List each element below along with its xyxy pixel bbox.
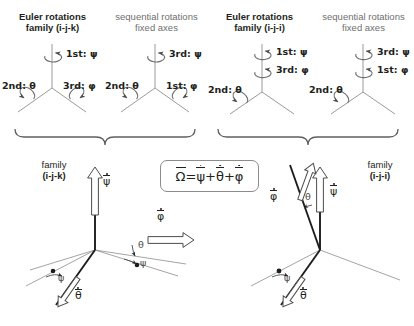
family-line-2: (i-j-k)	[22, 171, 86, 182]
tripod-euler-ijk-label-left: 2nd: θ	[2, 81, 36, 92]
tripod-euler-iji-label-vertical-bottom: 3rd: φ	[276, 65, 309, 76]
vector-psi-dot	[88, 167, 103, 215]
left-vector-label-psi-dot: ψ	[103, 176, 110, 188]
right-vector-label-psi-dot: ψ	[330, 186, 337, 198]
brace-family-ijk	[15, 129, 195, 145]
formula-omega-term: Ω	[176, 169, 186, 184]
family-label-iji: family (i-j-i)	[348, 160, 412, 182]
tripod-euler-ijk-label-vertical: 1st: ψ	[66, 49, 97, 60]
formula-phi: φ	[235, 169, 244, 184]
formula-phi-term: φ	[235, 169, 244, 184]
diagram-angular-velocity-iji	[251, 161, 400, 310]
tripod-sequential-iji-label-vertical-top: 3rd: ψ	[377, 47, 410, 58]
formula-box: Ω=ψ+θ+φ	[160, 160, 259, 192]
formula-psi-term: ψ	[196, 169, 205, 184]
header-euler-iji: Euler rotations family (i-j-i)	[212, 12, 307, 33]
left-vector-label-phi-dot: φ	[157, 211, 164, 223]
tripod-euler-iji-label-vertical-top: 1st: ψ	[276, 47, 307, 58]
tripod-sequential-iji-label-vertical-bottom: 1st: φ	[377, 65, 408, 76]
formula-equals: =	[186, 169, 197, 184]
right-angle-label-theta: θ	[305, 192, 311, 203]
figure-canvas: Euler rotations family (i-j-k) sequentia…	[0, 0, 414, 326]
tripod-sequential-ijk-label-left: 2nd: θ	[105, 81, 139, 92]
header-line-2: fixed axes	[104, 23, 209, 34]
formula-plus-1: +	[205, 169, 216, 184]
brace-family-iji	[218, 129, 398, 145]
right-vector-label-phi-dot: φ	[270, 191, 277, 203]
symbol-theta: θ	[300, 289, 307, 302]
family-line-2: (i-j-i)	[348, 171, 412, 182]
right-angle-label-psi: ψ	[284, 273, 290, 284]
formula-psi: ψ	[196, 169, 205, 184]
symbol-psi: ψ	[103, 175, 110, 188]
header-sequential-ijk: sequential rotations fixed axes	[104, 12, 209, 33]
header-euler-ijk: Euler rotations family (i-j-k)	[5, 12, 100, 33]
left-angle-label-psi-left: ψ	[58, 273, 64, 284]
left-vector-label-theta-dot: θ	[75, 290, 82, 302]
formula-plus-2: +	[224, 169, 235, 184]
header-line-2: family (i-j-k)	[5, 23, 100, 34]
tripod-sequential-ijk-label-right: 1st: φ	[166, 81, 197, 92]
symbol-phi: φ	[270, 190, 277, 203]
symbol-phi: φ	[157, 210, 164, 223]
symbol-psi: ψ	[330, 185, 337, 198]
vector-phi-dot	[148, 233, 194, 248]
tripod-sequential-iji-label-left: 2nd: θ	[309, 85, 343, 96]
header-line-2: fixed axes	[311, 23, 414, 34]
formula-theta-term: θ	[216, 169, 224, 184]
symbol-theta: θ	[75, 289, 82, 302]
tripod-euler-iji-label-left: 2nd: θ	[208, 85, 242, 96]
tripod-euler-ijk-label-right: 3rd: φ	[63, 81, 96, 92]
right-vector-label-theta-dot: θ	[300, 290, 307, 302]
node-dot	[277, 269, 282, 274]
node-dot	[51, 269, 56, 274]
formula-theta: θ	[216, 169, 224, 184]
tripod-sequential-ijk-label-vertical: 3rd: ψ	[169, 49, 202, 60]
header-sequential-iji: sequential rotations fixed axes	[311, 12, 414, 33]
formula-omega: Ω	[176, 169, 186, 184]
left-angle-label-theta: θ	[138, 240, 144, 251]
left-angle-label-psi-right: ψ	[140, 258, 146, 269]
header-line-2: family (i-j-i)	[212, 23, 307, 34]
formula-expression: Ω=ψ+θ+φ	[171, 169, 249, 184]
family-label-ijk: family (i-j-k)	[22, 160, 86, 182]
